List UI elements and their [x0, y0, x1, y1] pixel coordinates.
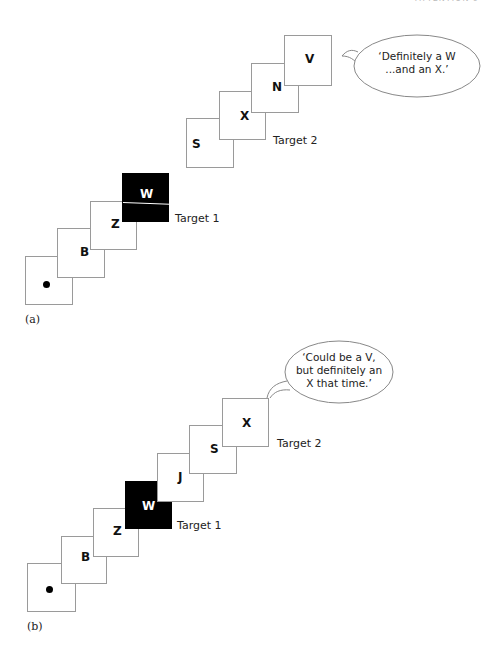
card-letter: B	[80, 246, 89, 258]
card-letter: S	[210, 443, 219, 455]
card-letter: X	[240, 110, 249, 122]
speech-line: ‘Definitely a W	[362, 50, 472, 63]
target2-label: Target 2	[277, 437, 322, 450]
card-letter: V	[305, 53, 314, 65]
target1-label: Target 1	[175, 212, 220, 225]
target2-label: Target 2	[273, 134, 318, 147]
speech-line: but definitely an	[289, 364, 389, 377]
card-letter: Z	[111, 218, 120, 230]
target1-label: Target 1	[177, 519, 222, 532]
card-letter: W	[140, 188, 153, 200]
panel-label-a: (a)	[25, 313, 40, 326]
card-letter: B	[81, 551, 90, 563]
card-artifact-line	[123, 202, 170, 205]
card-letter: N	[272, 81, 282, 93]
speech-text-a: ‘Definitely a W ...and an X.’	[362, 50, 472, 76]
fixation-dot-icon	[46, 586, 53, 593]
card-letter: W	[142, 500, 155, 512]
speech-line: ‘Could be a V,	[289, 351, 389, 364]
target1-card-w: W	[122, 173, 169, 222]
speech-text-b: ‘Could be a V, but definitely an X that …	[289, 351, 389, 390]
stimulus-card-v: V	[284, 35, 332, 86]
fixation-dot-icon	[43, 281, 50, 288]
card-letter: X	[242, 417, 251, 429]
panel-label-b: (b)	[27, 620, 43, 633]
card-letter: J	[178, 471, 182, 483]
speech-line: ...and an X.’	[362, 63, 472, 76]
card-letter: Z	[113, 525, 122, 537]
speech-line: X that time.’	[289, 377, 389, 390]
card-letter: S	[192, 138, 201, 150]
target2-card-x: X	[222, 398, 269, 447]
